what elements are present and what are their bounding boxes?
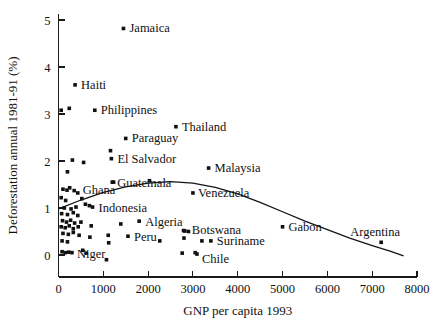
- data-point: [124, 137, 128, 141]
- data-point: [59, 196, 63, 200]
- data-point: [63, 251, 67, 255]
- data-point: [74, 205, 78, 209]
- point-label-argentina: Argentina: [350, 225, 400, 239]
- x-tick-label: 5000: [270, 282, 295, 296]
- data-point: [79, 220, 83, 224]
- x-tick-label: 2000: [136, 282, 161, 296]
- data-point: [73, 83, 77, 87]
- data-point: [68, 186, 72, 190]
- x-tick-label: 0: [55, 282, 61, 296]
- point-label-guatemala: Guatemala: [117, 176, 172, 190]
- data-point: [137, 219, 141, 223]
- scatter-plot-figure: 012345010002000300040005000600070008000 …: [0, 0, 436, 335]
- y-tick-label: 0: [44, 249, 50, 263]
- point-label-chile: Chile: [202, 252, 230, 266]
- data-point: [107, 241, 111, 245]
- x-tick-label: 4000: [225, 282, 250, 296]
- data-point: [182, 229, 186, 233]
- data-point: [67, 224, 71, 228]
- data-point: [63, 226, 67, 230]
- data-point: [60, 250, 64, 254]
- data-point: [88, 204, 92, 208]
- y-tick-label: 1: [44, 202, 50, 216]
- data-point: [71, 211, 75, 215]
- point-label-philippines: Philippines: [101, 103, 157, 117]
- data-point: [110, 157, 114, 161]
- data-point: [69, 218, 73, 222]
- data-point: [174, 125, 178, 129]
- point-label-ghana: Ghana: [83, 183, 116, 197]
- data-point: [76, 191, 80, 195]
- data-point: [109, 149, 113, 153]
- data-point: [191, 191, 195, 195]
- x-axis-title: GNP per capita 1993: [183, 303, 292, 318]
- data-point: [93, 108, 97, 112]
- data-point: [76, 214, 80, 218]
- data-point: [61, 232, 65, 236]
- x-tick-label: 1000: [91, 282, 116, 296]
- data-point: [209, 239, 213, 243]
- point-label-el-salvador: El Salvador: [117, 152, 177, 166]
- data-point: [63, 206, 67, 210]
- data-point: [66, 213, 70, 217]
- point-label-gabon: Gabon: [289, 220, 323, 234]
- data-point: [379, 241, 383, 245]
- data-point: [77, 233, 81, 237]
- point-label-suriname: Suriname: [217, 234, 265, 248]
- data-point: [119, 222, 123, 226]
- data-point: [187, 230, 191, 234]
- data-point: [67, 233, 71, 237]
- data-point: [71, 231, 75, 235]
- point-label-venezuela: Venezuela: [198, 186, 250, 200]
- y-tick-label: 2: [44, 155, 50, 169]
- plot-canvas: 012345010002000300040005000600070008000 …: [0, 0, 436, 335]
- data-point: [67, 107, 71, 111]
- data-point: [106, 233, 110, 237]
- data-point: [89, 224, 93, 228]
- data-point: [71, 158, 75, 162]
- data-point: [180, 251, 184, 255]
- data-point: [59, 108, 63, 112]
- point-label-malaysia: Malaysia: [215, 161, 261, 175]
- y-tick-label: 4: [44, 61, 51, 75]
- data-point: [80, 197, 84, 201]
- x-tick-label: 7000: [360, 282, 385, 296]
- data-point: [158, 239, 162, 243]
- data-point: [72, 189, 76, 193]
- data-point: [200, 239, 204, 243]
- point-labels-group: JamaicaHaitiPhilippinesThailandParaguayE…: [77, 21, 401, 266]
- data-point: [66, 170, 70, 174]
- x-tick-label: 3000: [180, 282, 205, 296]
- data-point: [70, 251, 74, 255]
- x-tick-label: 6000: [315, 282, 340, 296]
- data-point: [281, 225, 285, 229]
- data-point: [91, 205, 95, 209]
- data-point: [84, 202, 88, 206]
- data-point: [207, 166, 211, 170]
- data-point: [76, 225, 80, 229]
- point-label-algeria: Algeria: [145, 215, 183, 229]
- data-point: [59, 225, 63, 229]
- data-point: [60, 212, 64, 216]
- data-point: [182, 236, 186, 240]
- data-point: [122, 27, 126, 31]
- data-point: [67, 250, 71, 254]
- point-label-jamaica: Jamaica: [129, 21, 170, 35]
- data-point: [193, 251, 197, 255]
- point-label-thailand: Thailand: [182, 120, 227, 134]
- point-label-paraguay: Paraguay: [132, 131, 179, 145]
- data-point: [66, 240, 70, 244]
- point-label-peru: Peru: [134, 230, 158, 244]
- data-point: [71, 227, 75, 231]
- data-point: [64, 199, 68, 203]
- point-label-haiti: Haiti: [81, 78, 107, 92]
- point-label-niger: Niger: [77, 247, 106, 261]
- data-point: [126, 234, 130, 238]
- data-point: [60, 239, 64, 243]
- data-point: [61, 187, 65, 191]
- data-point: [88, 235, 92, 239]
- data-point: [69, 207, 73, 211]
- y-axis-title: Deforestation annual 1981-91 (%): [5, 57, 20, 235]
- y-tick-label: 5: [44, 14, 50, 28]
- data-point: [65, 220, 69, 224]
